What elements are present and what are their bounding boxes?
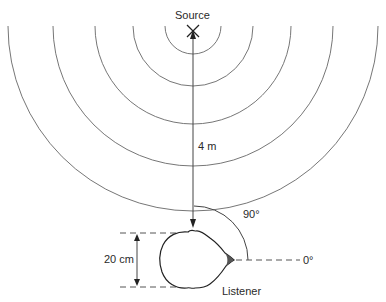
dim-arrow-bottom-icon <box>134 279 140 286</box>
distance-label: 4 m <box>198 141 216 152</box>
head-width-label: 20 cm <box>104 254 134 265</box>
listener-head-outline <box>160 230 234 288</box>
arrow-head-up-icon <box>190 30 196 39</box>
source-label: Source <box>175 10 210 21</box>
arrow-head-down-icon <box>190 219 196 228</box>
angle-90-label: 90° <box>243 209 260 220</box>
listener-label: Listener <box>222 286 261 297</box>
diagram-graphics <box>0 0 386 302</box>
angle-0-label: 0° <box>303 255 314 266</box>
dim-arrow-top-icon <box>134 234 140 241</box>
sound-source-diagram: Source 4 m 90° 0° 20 cm Listener <box>0 0 386 302</box>
